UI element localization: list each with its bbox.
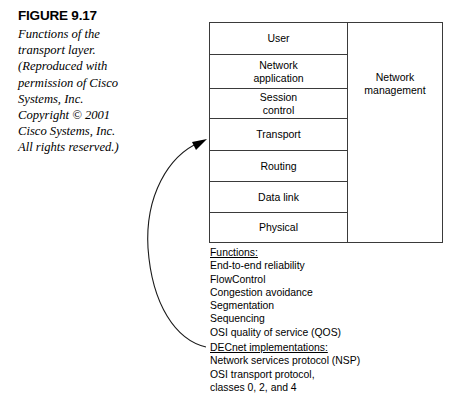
network-management-column: Network management — [348, 23, 442, 242]
decnet-item: Network services protocol (NSP) — [210, 354, 360, 367]
functions-item: OSI quality of service (QOS) — [210, 326, 341, 339]
functions-note: Functions: End-to-end reliability FlowCo… — [210, 246, 341, 339]
layer-label: Network application — [253, 59, 303, 84]
layer-label: Transport — [256, 128, 301, 141]
layer-row-physical: Physical — [210, 213, 347, 242]
functions-item: Segmentation — [210, 299, 341, 312]
layer-label: User — [267, 32, 289, 45]
figure-number: FIGURE 9.17 — [18, 8, 178, 24]
caption-line: Functions of the — [18, 26, 178, 42]
functions-item: FlowControl — [210, 273, 341, 286]
caption-line: All rights reserved.) — [18, 139, 178, 155]
callout-arrowhead-icon — [192, 139, 207, 150]
protocol-stack-diagram: User Network application Session control… — [209, 22, 443, 243]
functions-item: Congestion avoidance — [210, 286, 341, 299]
functions-item: End-to-end reliability — [210, 259, 341, 272]
caption-line: Cisco Systems, Inc. — [18, 123, 178, 139]
layer-row-user: User — [210, 23, 347, 55]
layer-label: Physical — [259, 221, 298, 234]
functions-heading: Functions: — [210, 246, 341, 259]
caption-line: Systems, Inc. — [18, 91, 178, 107]
decnet-note: DECnet implementations: Network services… — [210, 341, 360, 394]
figure-page: FIGURE 9.17 Functions of the transport l… — [0, 0, 466, 410]
figure-caption-text: Functions of the transport layer. (Repro… — [18, 26, 178, 156]
callout-arrow-curve — [148, 142, 206, 347]
caption-line: transport layer. — [18, 42, 178, 58]
decnet-item: classes 0, 2, and 4 — [210, 381, 360, 394]
caption-line: (Reproduced with — [18, 58, 178, 74]
layer-label: Data link — [258, 191, 299, 204]
layer-stack: User Network application Session control… — [210, 23, 348, 242]
caption-line: Copyright © 2001 — [18, 107, 178, 123]
decnet-item: OSI transport protocol, — [210, 368, 360, 381]
caption-line: permission of Cisco — [18, 75, 178, 91]
layer-row-transport: Transport — [210, 119, 347, 151]
functions-item: Sequencing — [210, 312, 341, 325]
layer-row-network-application: Network application — [210, 55, 347, 89]
layer-row-routing: Routing — [210, 151, 347, 182]
layer-row-data-link: Data link — [210, 182, 347, 213]
decnet-heading: DECnet implementations: — [210, 341, 360, 354]
layer-label: Session control — [260, 91, 297, 116]
layer-label: Routing — [260, 160, 296, 173]
layer-row-session-control: Session control — [210, 89, 347, 119]
network-management-label: Network management — [364, 71, 425, 194]
figure-caption-block: FIGURE 9.17 Functions of the transport l… — [18, 8, 178, 156]
